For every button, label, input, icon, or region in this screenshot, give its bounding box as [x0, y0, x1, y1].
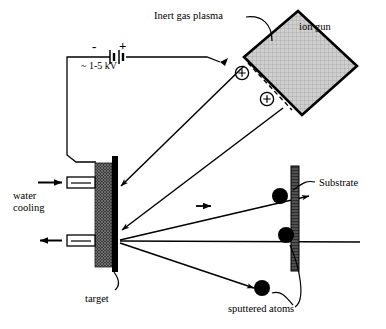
ion-beam-arrow-1	[121, 66, 244, 186]
water-cooling-ports	[38, 177, 95, 246]
ion-gun-terminal-node	[220, 58, 228, 66]
label-water-cooling-line1: water	[13, 190, 45, 202]
ion-beam-arrow-2	[122, 108, 283, 230]
target-plate	[112, 156, 118, 272]
sputtering-diagram: Inert gas plasma ion gun - + ~ 1-5 kV wa…	[0, 0, 386, 329]
target-leader-line	[114, 272, 119, 290]
label-ion-gun: ion gun	[299, 21, 331, 33]
label-inert-gas-plasma: Inert gas plasma	[154, 10, 223, 22]
label-substrate: Substrate	[319, 177, 358, 189]
diagram-canvas	[0, 0, 386, 329]
sputtered-atom-1	[272, 188, 288, 204]
sputtered-atom-3	[254, 280, 270, 296]
substrate-plate	[291, 166, 299, 271]
label-water-cooling-line2: cooling	[13, 202, 45, 214]
positive-wire-to-ion-gun	[126, 57, 220, 62]
target-backing-block	[95, 163, 112, 267]
label-target: target	[85, 293, 109, 305]
sputtered-trajectory-middle	[120, 241, 360, 242]
label-water-cooling: water cooling	[13, 190, 45, 214]
target-assembly	[95, 156, 118, 272]
sputtered-atom-2	[278, 227, 294, 243]
label-voltage: ~ 1-5 kV	[81, 60, 117, 71]
label-sputtered-atoms: sputtered atoms	[228, 303, 294, 315]
sputtered-trajectory-lower	[120, 243, 254, 288]
sputtered-atom-trajectories	[120, 196, 360, 288]
label-polarity-positive: +	[119, 39, 126, 54]
label-polarity-negative: -	[92, 40, 96, 55]
negative-wire-to-target	[67, 57, 110, 162]
